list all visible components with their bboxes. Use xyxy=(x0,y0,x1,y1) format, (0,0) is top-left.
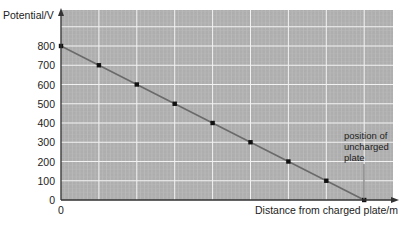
data-point xyxy=(210,121,214,125)
x-axis-label: Distance from charged plate/m xyxy=(255,204,398,216)
y-axis-label: Potential/V xyxy=(3,9,54,21)
data-point xyxy=(173,102,177,106)
data-point xyxy=(248,140,252,144)
x-tick-label-0: 0 xyxy=(58,204,64,216)
y-tick-label: 700 xyxy=(37,59,55,71)
y-tick-labels: 0100200300400500600700800 xyxy=(37,40,55,206)
y-tick-label: 300 xyxy=(37,136,55,148)
x-axis-arrow-icon xyxy=(391,197,399,203)
y-tick-label: 500 xyxy=(37,98,55,110)
data-point xyxy=(324,179,328,183)
y-tick-label: 400 xyxy=(37,117,55,129)
y-tick-label: 0 xyxy=(49,194,55,206)
data-point xyxy=(286,159,290,163)
annotation-line-1: position of xyxy=(344,130,388,141)
y-tick-label: 800 xyxy=(37,40,55,52)
y-tick-label: 100 xyxy=(37,175,55,187)
annotation-line-3: plate xyxy=(344,152,365,163)
annotation-line-2: uncharged xyxy=(344,141,389,152)
y-tick-label: 200 xyxy=(37,156,55,168)
data-point xyxy=(97,63,101,67)
data-point xyxy=(135,82,139,86)
potential-chart: 0100200300400500600700800 Potential/V Di… xyxy=(0,0,404,226)
y-tick-label: 600 xyxy=(37,79,55,91)
